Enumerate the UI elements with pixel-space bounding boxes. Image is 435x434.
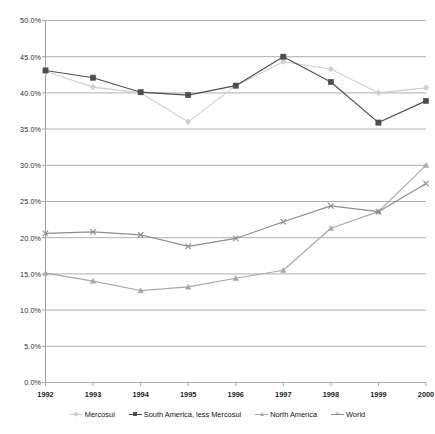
series-north-america (43, 163, 429, 293)
data-point-marker (423, 181, 428, 186)
legend-x-icon: × (331, 414, 344, 415)
chart-plot-area (0, 0, 435, 434)
x-axis-tick-label: 1995 (166, 390, 210, 399)
x-axis-tick-label: 1997 (261, 390, 305, 399)
data-point-marker (423, 85, 429, 91)
data-point-marker (233, 83, 238, 88)
x-axis-tick-label: 2000 (404, 390, 435, 399)
data-point-marker (90, 75, 95, 80)
legend-label: North America (270, 410, 317, 419)
legend-square-icon (129, 414, 142, 415)
data-point-marker (376, 120, 381, 125)
x-axis-tick-label: 1999 (356, 390, 400, 399)
legend-item[interactable]: North America (255, 410, 317, 419)
data-point-marker (90, 84, 96, 90)
series-line (46, 57, 427, 123)
data-point-marker (423, 98, 428, 103)
legend-label: South America, less Mercosul (144, 410, 241, 419)
x-axis-tick-label: 1996 (214, 390, 258, 399)
legend-marker (133, 412, 137, 416)
legend-diamond-icon (70, 414, 83, 415)
data-point-marker (376, 90, 382, 96)
legend-item[interactable]: South America, less Mercosul (129, 410, 241, 419)
legend-label: World (346, 410, 365, 419)
x-axis-tick-label: 1992 (24, 390, 68, 399)
data-point-marker (43, 270, 49, 275)
data-point-marker (43, 68, 48, 73)
data-point-marker (280, 59, 286, 65)
series-line (46, 165, 427, 290)
legend-label: Mercosul (85, 410, 115, 419)
data-point-marker (328, 66, 334, 72)
data-point-marker (186, 92, 191, 97)
chart-legend: MercosulSouth America, less MercosulNort… (0, 410, 435, 419)
data-point-marker (138, 90, 143, 95)
data-point-marker (281, 219, 286, 224)
chart-container: 50.0%45.0%40.0%35.0%30.0%25.0%20.0%15.0%… (0, 0, 435, 434)
legend-marker: × (336, 412, 340, 416)
x-axis-tick-label: 1994 (119, 390, 163, 399)
data-point-marker (281, 54, 286, 59)
series-line (46, 62, 427, 122)
legend-triangle-icon (255, 414, 268, 415)
legend-item[interactable]: Mercosul (70, 410, 115, 419)
legend-item[interactable]: ×World (331, 410, 365, 419)
legend-marker (73, 411, 79, 417)
x-axis-tick-label: 1998 (309, 390, 353, 399)
legend-marker (260, 412, 264, 416)
data-point-marker (328, 79, 333, 84)
x-axis-tick-label: 1993 (71, 390, 115, 399)
series-mercosul (43, 59, 429, 125)
